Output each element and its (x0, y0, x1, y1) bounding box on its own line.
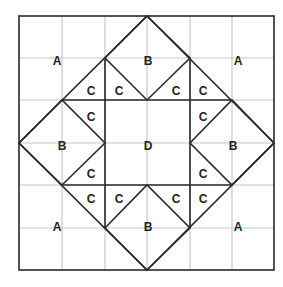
piece-label-a: A (53, 54, 62, 68)
piece-label-c: C (199, 192, 208, 206)
piece-label-c: C (87, 110, 96, 124)
piece-label-b: B (229, 139, 238, 153)
piece-label-c: C (87, 167, 96, 181)
piece-label-c: C (87, 192, 96, 206)
piece-label-a: A (234, 220, 243, 234)
piece-label-c: C (172, 192, 181, 206)
piece-label-c: C (199, 167, 208, 181)
piece-label-c: C (115, 84, 124, 98)
piece-label-c: C (199, 110, 208, 124)
piece-label-c: C (172, 84, 181, 98)
piece-label-c: C (87, 84, 96, 98)
piece-label-d: D (144, 139, 153, 153)
piece-label-c: C (199, 84, 208, 98)
quilt-block-diagram: ABACCCCCCBDBCCCCCCABA (0, 0, 283, 287)
piece-label-b: B (58, 139, 67, 153)
piece-label-b: B (144, 220, 153, 234)
piece-label-c: C (115, 192, 124, 206)
piece-label-a: A (53, 220, 62, 234)
piece-label-a: A (234, 54, 243, 68)
piece-label-b: B (144, 54, 153, 68)
